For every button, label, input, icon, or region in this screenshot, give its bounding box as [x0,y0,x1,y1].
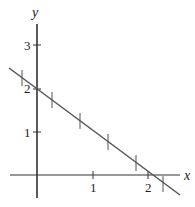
x-tick-label-1: 1 [90,180,97,195]
y-tick-label-3: 3 [24,38,31,53]
x-tick-label-2: 2 [145,180,152,195]
y-axis-label: y [30,5,39,20]
graph-canvas: y x 3 2 1 1 2 [0,0,195,207]
y-tick-label-1: 1 [24,125,31,140]
x-axis-label: x [183,168,191,183]
